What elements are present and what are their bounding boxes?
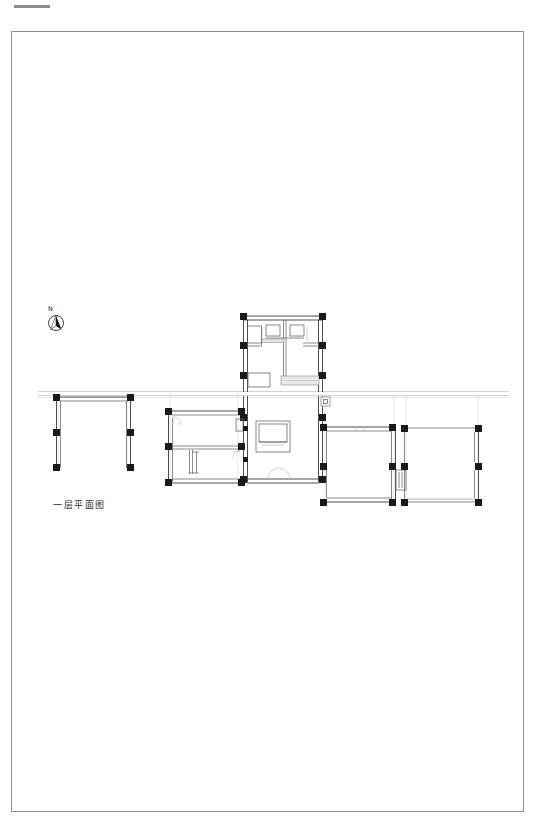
column: [401, 463, 408, 470]
floor-plan-canvas: [0, 0, 547, 838]
section-reference-marker: [321, 397, 330, 406]
column: [240, 414, 247, 421]
column: [127, 394, 134, 401]
column: [243, 426, 248, 431]
west-pavilion-block: [53, 394, 134, 471]
column: [53, 429, 60, 436]
column: [320, 499, 327, 506]
north-arrow-compass: [49, 316, 64, 331]
far-east-room-block: [401, 425, 482, 506]
east-room-block: [320, 424, 406, 506]
column: [320, 424, 327, 431]
drawing-sheet: N 一层平面图: [0, 0, 547, 838]
column: [475, 425, 482, 432]
central-core-block: [240, 313, 326, 483]
central-courtyard-pool: [256, 421, 290, 479]
column: [389, 424, 396, 431]
column: [243, 457, 248, 462]
column: [127, 464, 134, 471]
column: [240, 342, 247, 349]
site-guide-lines: [58, 392, 478, 506]
column: [238, 479, 245, 486]
column: [475, 463, 482, 470]
column: [165, 479, 172, 486]
column: [238, 443, 245, 450]
column: [401, 499, 408, 506]
column: [53, 394, 60, 401]
column: [319, 414, 326, 421]
column: [240, 372, 247, 379]
column: [320, 463, 327, 470]
column: [127, 429, 134, 436]
column: [319, 372, 326, 379]
column: [165, 408, 172, 415]
column: [389, 499, 396, 506]
plan-caption: 一层平面图: [53, 498, 106, 511]
page-frame: [12, 32, 524, 812]
column: [389, 463, 396, 470]
column: [319, 342, 326, 349]
column: [238, 408, 245, 415]
column: [475, 499, 482, 506]
column: [319, 313, 326, 320]
column: [319, 476, 326, 483]
column: [240, 313, 247, 320]
column: [53, 464, 60, 471]
north-label: N: [48, 305, 53, 313]
column: [401, 425, 408, 432]
west-wing-block: [165, 408, 248, 486]
column: [165, 443, 172, 450]
